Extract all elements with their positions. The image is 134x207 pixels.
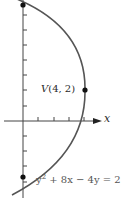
equation-label: y2 + 8x − 4y = 2 xyxy=(36,174,121,185)
point-vertex xyxy=(82,87,87,92)
equation-rest: + 8x − 4y = 2 xyxy=(46,174,121,185)
x-axis-arrow-icon xyxy=(93,118,102,124)
point-bottom-intercept xyxy=(20,174,25,179)
y-axis-ticks xyxy=(23,15,27,182)
point-top-intercept xyxy=(20,2,25,7)
x-axis-ticks xyxy=(38,117,84,121)
vertex-coords: (4, 2) xyxy=(48,83,75,94)
parabola-diagram: V(4, 2) x y2 + 8x − 4y = 2 xyxy=(0,0,134,207)
vertex-label: V(4, 2) xyxy=(41,84,75,94)
x-axis-label: x xyxy=(104,113,110,124)
